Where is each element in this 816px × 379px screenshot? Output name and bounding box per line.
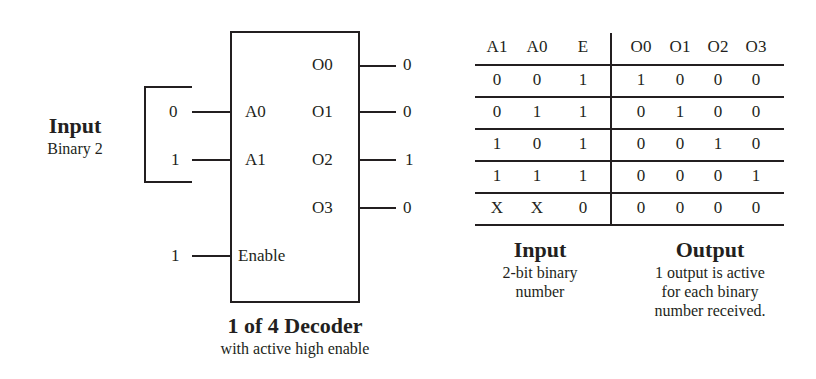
cell: 0 [565,198,601,218]
cell: 1 [700,134,736,154]
pin-o1-label: O1 [312,102,333,122]
table-rule [475,224,784,226]
input-a1-value: 1 [171,150,180,170]
header-a0: A0 [519,37,555,57]
header-o0: O0 [623,37,659,57]
cell: 1 [479,166,515,186]
cell: 0 [662,198,698,218]
cell: 1 [519,102,555,122]
decoder-title: 1 of 4 Decoder [180,313,410,339]
table-input-caption-line: number [470,282,610,301]
cell: 0 [738,102,774,122]
table-rule [475,64,784,66]
input-label-title: Input [30,113,120,139]
cell: 0 [662,166,698,186]
cell: 1 [565,102,601,122]
table-rule [475,192,784,194]
pin-o2-label: O2 [312,150,333,170]
table-output-caption-line: 1 output is active [615,263,805,282]
cell: 1 [565,70,601,90]
cell: 0 [700,70,736,90]
input-label-subtitle: Binary 2 [30,139,120,159]
cell: 0 [662,134,698,154]
table-output-caption-line: number received. [615,301,805,320]
input-a0-value: 0 [169,102,178,122]
cell: 0 [519,134,555,154]
output-o3-value: 0 [403,198,412,218]
header-a1: A1 [479,37,515,57]
cell: 1 [565,166,601,186]
cell: 0 [623,102,659,122]
pin-a1-label: A1 [245,150,266,170]
table-rule [475,160,784,162]
output-o0-value: 0 [403,55,412,75]
table-rule [475,96,784,98]
cell: 0 [662,70,698,90]
table-output-caption-title: Output [630,237,790,263]
cell: 0 [738,198,774,218]
table-output-caption-line: for each binary [615,282,805,301]
table-input-caption-line: 2-bit binary [470,263,610,282]
cell: 1 [623,70,659,90]
pin-o3-label: O3 [312,198,333,218]
header-o2: O2 [700,37,736,57]
cell: X [479,198,515,218]
cell: 0 [623,198,659,218]
cell: 0 [479,102,515,122]
cell: 0 [700,198,736,218]
cell: X [519,198,555,218]
cell: 1 [662,102,698,122]
cell: 0 [479,70,515,90]
pin-enable-label: Enable [238,246,285,266]
input-a1-wire [192,159,232,161]
cell: 1 [738,166,774,186]
header-o1: O1 [662,37,698,57]
output-o2-value: 1 [405,150,414,170]
table-rule [475,128,784,130]
decoder-subtitle: with active high enable [160,339,430,359]
output-o1-value: 0 [403,102,412,122]
header-e: E [565,37,601,57]
output-o2-wire [358,159,396,161]
pin-a0-label: A0 [245,102,266,122]
enable-wire [192,255,232,257]
cell: 0 [519,70,555,90]
cell: 1 [565,134,601,154]
cell: 1 [479,134,515,154]
cell: 0 [623,166,659,186]
cell: 1 [519,166,555,186]
output-o3-wire [358,207,396,209]
cell: 0 [623,134,659,154]
output-o0-wire [358,65,396,67]
cell: 0 [700,102,736,122]
output-o1-wire [358,111,396,113]
cell: 0 [738,134,774,154]
enable-value: 1 [171,246,180,266]
input-a0-wire [192,111,232,113]
header-o3: O3 [738,37,774,57]
table-input-caption-title: Input [475,237,605,263]
pin-o0-label: O0 [312,55,333,75]
cell: 0 [738,70,774,90]
cell: 0 [700,166,736,186]
table-divider [610,33,612,225]
